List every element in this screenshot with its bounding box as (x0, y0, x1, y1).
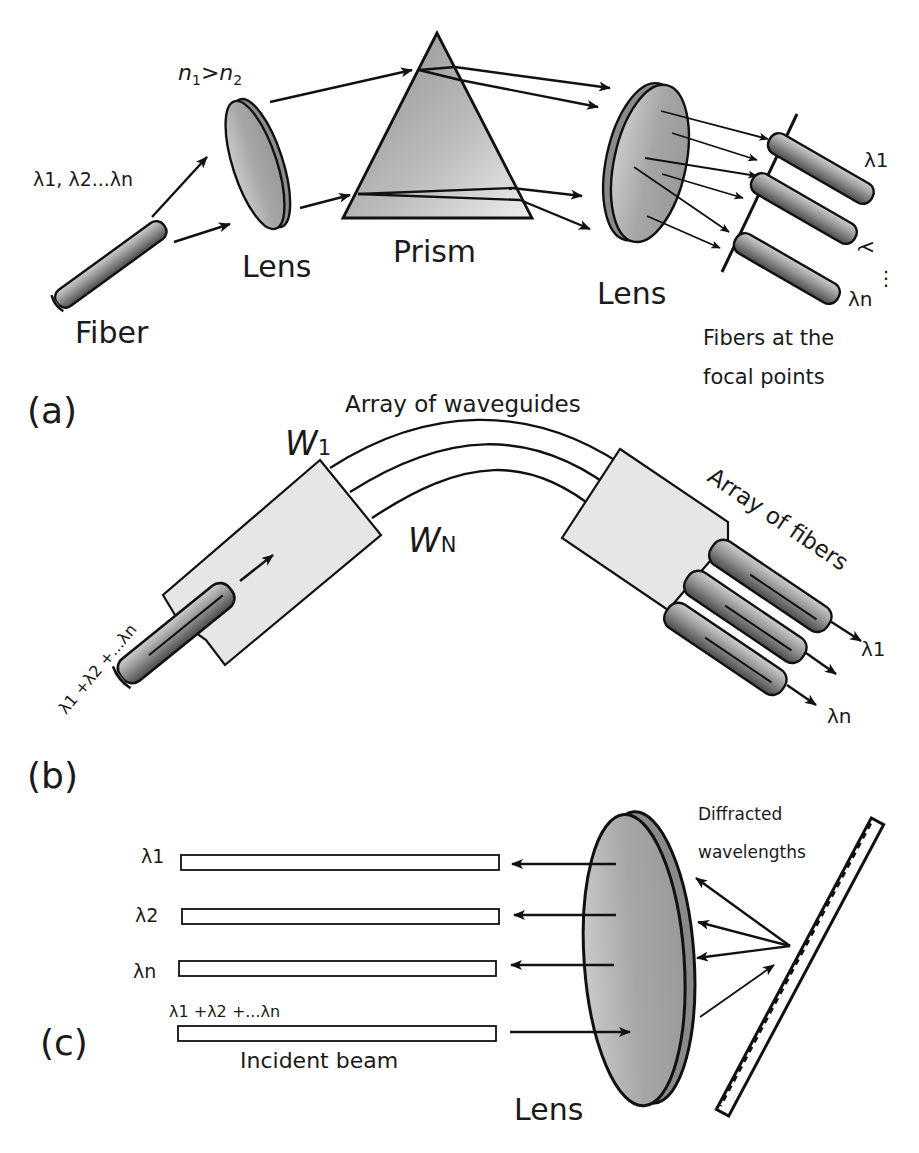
label-lambda-1: λ1 (141, 845, 164, 867)
incident-ray-to-grating (700, 965, 774, 1017)
waveguide-n (372, 470, 610, 522)
output-fiber-n (730, 229, 843, 307)
label-prism: Prism (393, 234, 476, 269)
output-waveguide-lambda-2 (182, 909, 499, 924)
panel-label-a: (a) (27, 390, 77, 431)
ray-arrow (174, 224, 230, 242)
label-dots: ⋮ (876, 266, 896, 290)
output-waveguide-lambda-1 (181, 855, 499, 870)
label-input-sum: λ1 +λ2 +...λn (169, 1002, 280, 1021)
ray-arrow (152, 157, 207, 217)
waveguide-1 (330, 420, 638, 476)
diffracted-ray-1 (696, 878, 790, 946)
panel-a: λ1, λ2...λn n1>n2 Fiber Lens Prism Lens … (27, 33, 896, 431)
diffraction-grating (716, 818, 883, 1116)
label-incident-beam: Incident beam (240, 1048, 398, 1073)
diffracted-ray-2 (698, 922, 790, 946)
output-arrow-1 (830, 621, 861, 641)
label-lambda-n: λn (133, 960, 156, 982)
label-w1: W1 (285, 424, 331, 463)
label-fibers-focal-2: focal points (703, 365, 825, 389)
label-out-lambda-n: λn (827, 704, 852, 728)
output-waveguide-lambda-n (179, 961, 496, 976)
label-lens-input: Lens (242, 249, 311, 284)
label-input-wavelengths: λ1, λ2...λn (33, 168, 133, 190)
ray-arrow (300, 195, 350, 208)
label-array-of-waveguides: Array of waveguides (345, 391, 581, 417)
panel-label-c: (c) (40, 1022, 88, 1063)
label-out-lambda-1: λ1 (861, 637, 886, 661)
ray-arrow (512, 188, 582, 196)
input-fiber (50, 218, 170, 313)
label-lambda-2: λ2 (135, 904, 158, 926)
label-fiber: Fiber (75, 315, 149, 350)
optical-demultiplexer-figure: λ1, λ2...λn n1>n2 Fiber Lens Prism Lens … (0, 0, 919, 1153)
output-arrow-n (787, 685, 816, 705)
label-out-lambda-1: λ1 (864, 148, 889, 172)
ray-arrow (455, 67, 610, 88)
label-out-lambda-mid: λ (854, 241, 878, 253)
label-out-lambda-n: λn (848, 287, 873, 311)
label-fibers-focal-1: Fibers at the (703, 326, 834, 350)
panel-b: Array of waveguides W1 WN λ1 +λ2 +...λn … (27, 391, 886, 796)
label-diffracted-1: Diffracted (698, 804, 782, 824)
diffracted-ray-3 (697, 946, 790, 958)
input-waveguide (178, 1026, 496, 1041)
output-arrow-2 (806, 653, 836, 674)
ray-arrow (270, 70, 412, 102)
panel-c: λ1 λ2 λn λ1 +λ2 +...λn Incident beam Len… (40, 804, 884, 1127)
panel-label-b: (b) (27, 755, 78, 796)
label-diffracted-2: wavelengths (698, 842, 806, 862)
input-lens (213, 93, 302, 236)
label-refractive-index: n1>n2 (178, 60, 242, 88)
output-lens (590, 76, 702, 249)
label-wn: WN (408, 521, 456, 560)
label-lens: Lens (514, 1092, 583, 1127)
label-lens-output: Lens (597, 276, 666, 311)
focusing-lens (574, 808, 704, 1109)
